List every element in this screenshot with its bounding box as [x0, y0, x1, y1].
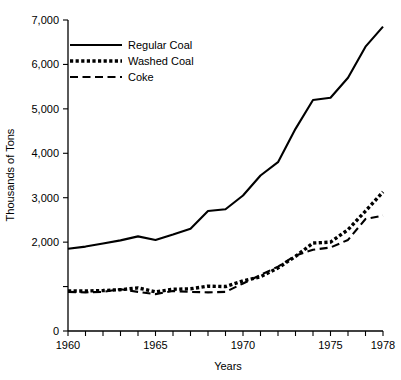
legend-label: Coke [128, 71, 154, 83]
legend-label: Regular Coal [128, 39, 192, 51]
x-tick-label: 1970 [231, 339, 255, 351]
y-tick-label: 0 [53, 325, 59, 337]
x-axis-ticks [68, 331, 383, 336]
x-tick-label: 1975 [318, 339, 342, 351]
y-axis-tick-labels: 02,0003,0004,0005,0006,0007,000 [31, 14, 59, 337]
y-tick-label: 5,000 [31, 103, 59, 115]
y-tick-label: 3,000 [31, 192, 59, 204]
x-axis-tick-labels: 19601965197019751978 [56, 339, 395, 351]
y-tick-label: 4,000 [31, 147, 59, 159]
x-tick-label: 1978 [371, 339, 395, 351]
y-tick-label: 2,000 [31, 236, 59, 248]
x-tick-label: 1960 [56, 339, 80, 351]
chart-canvas: 02,0003,0004,0005,0006,0007,000 19601965… [0, 0, 401, 380]
data-series-group [68, 27, 383, 294]
line-chart: 02,0003,0004,0005,0006,0007,000 19601965… [0, 0, 401, 380]
y-tick-label: 6,000 [31, 58, 59, 70]
x-axis-title: Years [214, 360, 242, 372]
y-axis-title: Thousands of Tons [4, 128, 16, 221]
series-line-coke [68, 215, 383, 294]
chart-legend: Regular CoalWashed CoalCoke [70, 39, 194, 83]
legend-label: Washed Coal [128, 55, 194, 67]
y-axis-ticks [63, 20, 68, 331]
y-tick-label: 7,000 [31, 14, 59, 26]
x-tick-label: 1965 [143, 339, 167, 351]
